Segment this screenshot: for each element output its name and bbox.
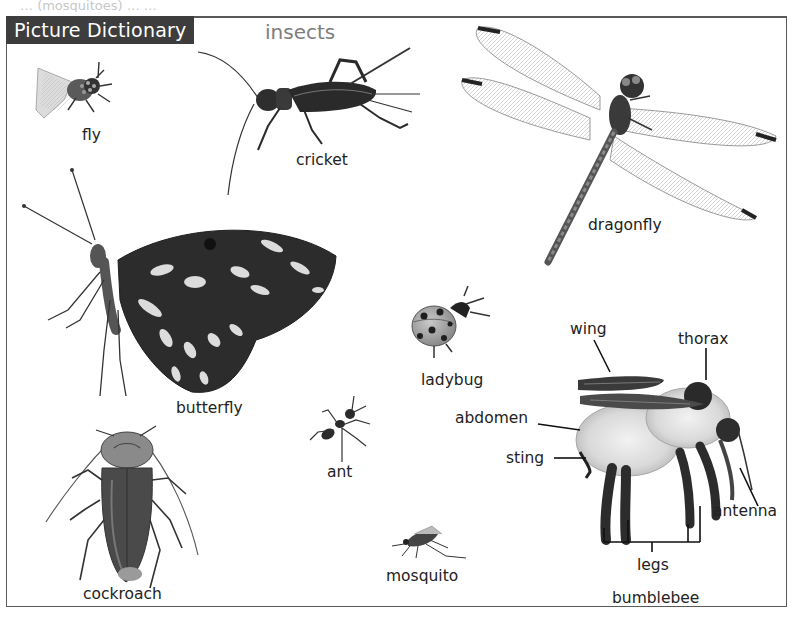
insects-illustration [0, 0, 795, 617]
label-fly: fly [82, 126, 101, 144]
cockroach-illustration [46, 426, 198, 588]
ladybug-illustration [412, 286, 490, 358]
fly-illustration [36, 62, 112, 118]
page-title: Picture Dictionary [6, 16, 194, 44]
label-cockroach: cockroach [83, 585, 162, 603]
part-label-abdomen: abdomen [455, 409, 528, 427]
part-label-thorax: thorax [678, 330, 728, 348]
label-bumblebee: bumblebee [612, 589, 699, 607]
part-label-antenna: antenna [713, 502, 777, 520]
ant-illustration [310, 396, 370, 462]
label-mosquito: mosquito [386, 567, 458, 585]
label-butterfly: butterfly [176, 399, 243, 417]
label-ladybug: ladybug [421, 371, 483, 389]
mosquito-illustration [392, 526, 466, 558]
part-label-legs: legs [637, 556, 669, 574]
topic-heading: insects [265, 18, 335, 46]
label-dragonfly: dragonfly [588, 216, 662, 234]
cricket-illustration [198, 48, 420, 195]
label-ant: ant [327, 463, 352, 481]
label-cricket: cricket [296, 151, 348, 169]
part-label-wing: wing [570, 320, 607, 338]
butterfly-illustration [22, 168, 336, 396]
part-label-sting: sting [506, 449, 544, 467]
